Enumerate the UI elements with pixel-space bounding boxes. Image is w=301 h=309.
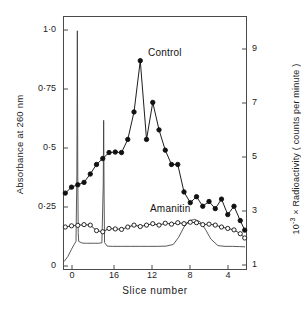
amanitin-data-point [157,223,161,227]
control-data-point [88,172,92,176]
control-data-point [157,128,161,132]
control-data-point [138,58,142,62]
control-data-point [182,190,186,194]
control-data-point [63,191,67,195]
control-data-point [207,199,211,203]
amanitin-data-point [132,223,136,227]
control-data-point [243,228,247,232]
control-data-point [219,197,223,201]
amanitin-data-point [63,225,67,229]
amanitin-data-point [207,222,211,226]
amanitin-data-point [169,222,173,226]
control-data-point [213,206,217,210]
control-data-point [101,156,105,160]
control-data-point [144,137,148,141]
control-data-point [107,150,111,154]
control-data-point [69,185,73,189]
amanitin-data-point [76,223,80,227]
amanitin-data-point [82,223,86,227]
control-data-point [113,150,117,154]
axis-tick-marks [64,30,247,270]
amanitin-data-point [119,227,123,231]
control-data-point [176,162,180,166]
amanitin-data-point [151,222,155,226]
control-data-point [194,195,198,199]
amanitin-data-point [88,223,92,227]
plot-data-layer [0,0,301,309]
amanitin-data-point [107,226,111,230]
control-data-point [169,162,173,166]
amanitin-data-point [238,232,242,236]
amanitin-data-point [232,228,236,232]
control-data-point [126,137,130,141]
control-data-point [82,180,86,184]
amanitin-data-point [243,236,247,240]
amanitin-data-point [226,226,230,230]
amanitin-data-point [194,221,198,225]
amanitin-series-group [63,220,247,240]
control-data-point [151,100,155,104]
figure-container: Absorbance at 260 nm 10-3 × Radioactivit… [0,0,301,309]
control-data-point [201,204,205,208]
control-data-point [188,200,192,204]
control-data-point [94,162,98,166]
amanitin-data-point [144,223,148,227]
amanitin-data-point [69,224,73,228]
control-data-point [163,148,167,152]
amanitin-data-point [188,220,192,224]
amanitin-data-point [113,227,117,231]
amanitin-data-point [94,229,98,233]
amanitin-data-point [176,221,180,225]
control-series-group [63,58,247,232]
amanitin-data-point [163,221,167,225]
control-data-point [76,183,80,187]
amanitin-data-point [182,222,186,226]
amanitin-data-point [201,223,205,227]
control-data-point [119,150,123,154]
control-data-point [226,212,230,216]
amanitin-data-point [213,223,217,227]
control-data-point [238,218,242,222]
control-data-point [232,204,236,208]
amanitin-data-point [219,225,223,229]
amanitin-data-point [101,230,105,234]
amanitin-data-point [126,225,130,229]
control-data-point [132,110,136,114]
amanitin-data-point [138,224,142,228]
